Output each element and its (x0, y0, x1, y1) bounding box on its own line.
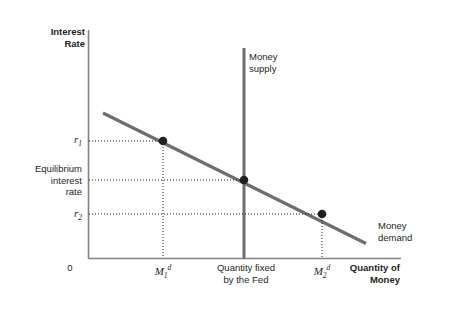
point-equilibrium-marker (240, 176, 249, 185)
money-demand-label: Money demand (378, 220, 412, 244)
money-market-diagram: Interest Rate Quantity of Money r1 Equil… (0, 0, 461, 309)
point-r2-marker (318, 210, 327, 219)
quantity-fixed-line2: by the Fed (224, 274, 269, 285)
money-supply-line2: supply (249, 63, 276, 74)
equilibrium-line1: Equilibrium (35, 163, 82, 174)
y-axis-title-line1: Interest (51, 26, 85, 37)
equilibrium-line2: interest (51, 175, 82, 186)
m1-symbol: M1d (155, 265, 172, 277)
equilibrium-line3: rate (66, 186, 82, 197)
x-axis-title-line2: Money (370, 274, 400, 285)
money-supply-line1: Money (249, 51, 278, 62)
money-demand-line2: demand (378, 232, 412, 243)
x-tick-label-quantity-fixed: Quantity fixed by the Fed (197, 262, 295, 285)
x-axis-title-line1: Quantity of (350, 262, 400, 273)
money-supply-label: Money supply (249, 51, 278, 75)
r2-symbol: r2 (74, 207, 82, 219)
r1-symbol: r1 (74, 133, 82, 145)
money-demand-curve (103, 113, 366, 244)
origin-label: 0 (60, 262, 80, 274)
y-tick-label-r2: r2 (0, 208, 82, 224)
money-demand-line1: Money (378, 220, 407, 231)
y-tick-label-r1: r1 (0, 134, 82, 150)
y-axis-title: Interest Rate (0, 26, 85, 50)
point-r1-marker (159, 137, 168, 146)
m2-symbol: M2d (314, 265, 331, 277)
x-tick-label-m2: M2d (297, 262, 347, 281)
quantity-fixed-line1: Quantity fixed (217, 262, 275, 273)
y-tick-label-equilibrium: Equilibrium interest rate (0, 163, 82, 198)
y-axis-title-line2: Rate (64, 38, 85, 49)
x-tick-label-m1: M1d (138, 262, 188, 281)
